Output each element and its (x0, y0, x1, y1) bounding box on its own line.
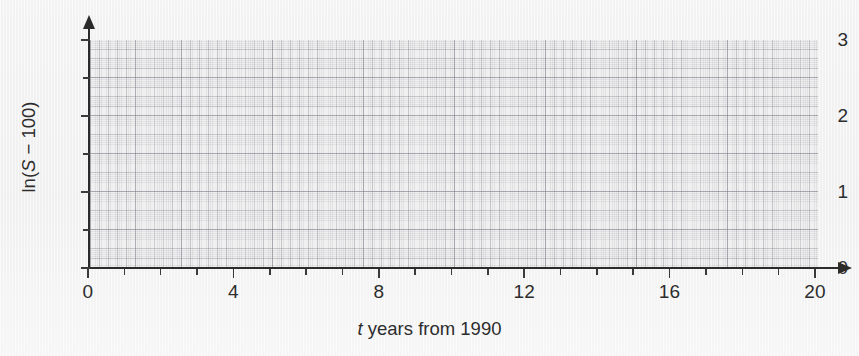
x-tick-major (378, 269, 380, 278)
y-axis-title-variable: S (18, 160, 39, 172)
y-axis-line (88, 26, 90, 269)
x-tick-minor (196, 269, 198, 275)
y-axis-title-suffix: − 100) (18, 101, 39, 159)
x-tick-label: 12 (513, 281, 535, 303)
x-tick-major (87, 269, 89, 278)
y-tick-minor (83, 153, 90, 155)
x-axis-title: t years from 1990 (0, 318, 859, 340)
x-tick-minor (632, 269, 634, 275)
x-axis-line (88, 267, 840, 269)
y-tick-major (81, 191, 90, 193)
y-tick-minor (83, 229, 90, 231)
y-tick-major (81, 39, 90, 41)
x-tick-minor (414, 269, 416, 275)
x-tick-label: 4 (228, 281, 239, 303)
x-tick-minor (305, 269, 307, 275)
x-tick-minor (560, 269, 562, 275)
x-tick-minor (596, 269, 598, 275)
x-tick-minor (705, 269, 707, 275)
grid-heavy-lines (90, 40, 818, 268)
y-axis-title-prefix: ln( (18, 172, 39, 193)
x-tick-label: 16 (659, 281, 681, 303)
x-tick-label: 8 (373, 281, 384, 303)
plot-area (90, 40, 818, 268)
x-tick-major (233, 269, 235, 278)
y-tick-major (81, 115, 90, 117)
x-tick-minor (160, 269, 162, 275)
x-tick-minor (451, 269, 453, 275)
y-tick-major (81, 267, 90, 269)
y-tick-label: 1 (789, 181, 859, 203)
x-tick-minor (342, 269, 344, 275)
x-tick-minor (269, 269, 271, 275)
x-tick-label: 20 (804, 281, 826, 303)
y-tick-label: 3 (789, 29, 859, 51)
y-tick-label: 2 (789, 105, 859, 127)
x-tick-minor (487, 269, 489, 275)
x-axis-title-rest: years from 1990 (363, 318, 502, 339)
x-tick-major (669, 269, 671, 278)
x-tick-minor (124, 269, 126, 275)
y-axis-arrow-icon (83, 15, 95, 29)
x-tick-label: 0 (83, 281, 94, 303)
y-axis-title: ln(S − 100) (18, 57, 40, 237)
graph-figure: 048121620 0123 t years from 1990 ln(S − … (0, 0, 859, 356)
y-tick-minor (83, 77, 90, 79)
y-tick-label: 0 (789, 257, 859, 279)
x-tick-minor (778, 269, 780, 275)
x-tick-minor (742, 269, 744, 275)
x-tick-major (523, 269, 525, 278)
